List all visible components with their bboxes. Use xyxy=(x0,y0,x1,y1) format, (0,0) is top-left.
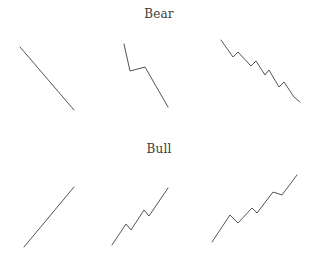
bull-advance-multi-dip-line xyxy=(212,175,297,242)
bear-decline-single-rally-line xyxy=(124,44,168,107)
bear-bull-pattern-figure: Bear Bull xyxy=(0,0,318,265)
bull-advance-double-dip-line xyxy=(112,188,168,245)
bear-decline-multi-rally-line xyxy=(221,40,300,102)
bull-straight-advance-line xyxy=(24,187,74,247)
bear-straight-decline-line xyxy=(20,47,74,110)
pattern-sketch-layer xyxy=(0,0,318,265)
